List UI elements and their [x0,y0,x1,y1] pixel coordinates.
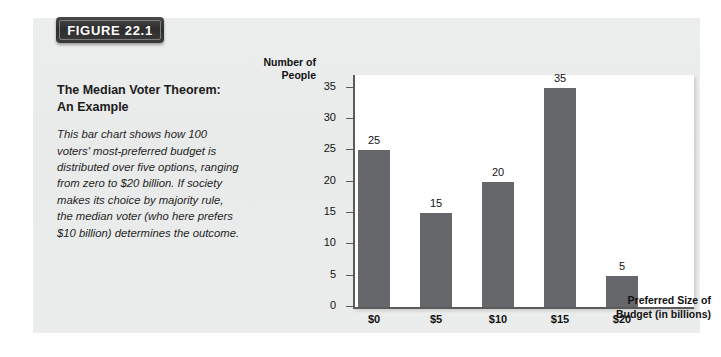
x-axis-tick-label: $10 [476,313,520,325]
x-axis-tick-label: $15 [538,313,582,325]
y-axis-tick: 0 [346,306,353,307]
y-axis-tick: 15 [346,212,353,213]
bar: 35 [544,88,576,307]
y-axis-line [353,75,355,309]
bar: 25 [358,150,390,307]
bar-value-label: 15 [430,197,442,209]
bar: 15 [420,213,452,307]
y-axis-tick-label: 20 [310,174,336,186]
y-axis-tick-label: 30 [310,111,336,123]
y-axis-tick: 30 [346,118,353,119]
plot-region: 05101520253035 251520355 $0$5$10$15$20 [353,75,694,309]
y-axis-tick: 20 [346,181,353,182]
y-axis-tick: 10 [346,243,353,244]
y-axis-tick-label: 25 [310,142,336,154]
bar: 20 [482,182,514,307]
y-axis-tick: 35 [346,87,353,88]
caption-title: The Median Voter Theorem: An Example [57,82,241,115]
caption-body: This bar chart shows how 100 voters' mos… [57,126,241,241]
y-axis-tick: 5 [346,275,353,276]
chart-plot-area: 05101520253035 251520355 $0$5$10$15$20 [353,75,694,309]
bar-value-label: 25 [368,134,380,146]
figure-badge: FIGURE 22.1 [56,17,164,43]
y-axis-tick-label: 15 [310,205,336,217]
figure-badge-label: FIGURE 22.1 [67,23,153,38]
y-axis-tick-label: 10 [310,236,336,248]
figure-caption: The Median Voter Theorem: An Example Thi… [57,82,241,241]
bar-value-label: 20 [492,166,504,178]
x-axis-tick-label: $0 [352,313,396,325]
y-axis-tick-label: 0 [310,299,336,311]
bar-value-label: 35 [554,72,566,84]
y-axis-tick: 25 [346,149,353,150]
x-axis-title: Preferred Size of Budget (in billions) [589,294,711,321]
x-axis-tick-label: $5 [414,313,458,325]
y-axis-title: Number of People [258,56,316,82]
y-axis-tick-label: 5 [310,268,336,280]
bar-value-label: 5 [619,260,625,272]
